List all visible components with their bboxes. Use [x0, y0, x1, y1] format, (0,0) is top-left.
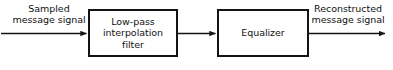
- block-filter-line3: filter: [92, 39, 174, 50]
- block-diagram: Sampled message signal Low-pass interpol…: [0, 0, 393, 70]
- block-lowpass-interpolation-filter: Low-pass interpolation filter: [88, 9, 178, 57]
- block-filter-line2: interpolation: [92, 27, 174, 38]
- input-signal-label: Sampled message signal: [8, 3, 90, 26]
- input-signal-label-line1: Sampled: [8, 3, 90, 14]
- output-signal-label: Reconstructed message signal: [303, 3, 393, 26]
- block-equalizer-text: Equalizer: [219, 27, 307, 38]
- output-signal-label-line1: Reconstructed: [303, 3, 393, 14]
- input-signal-label-line2: message signal: [8, 14, 90, 25]
- output-signal-label-line2: message signal: [303, 14, 393, 25]
- block-equalizer-line1: Equalizer: [221, 27, 305, 38]
- block-lowpass-interpolation-filter-text: Low-pass interpolation filter: [90, 16, 176, 50]
- block-equalizer: Equalizer: [217, 9, 309, 57]
- block-filter-line1: Low-pass: [92, 16, 174, 27]
